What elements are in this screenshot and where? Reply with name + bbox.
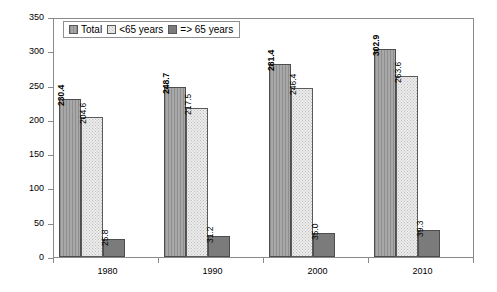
y-axis-tick-label: 300 bbox=[29, 46, 44, 57]
legend: Total <65 years => 65 years bbox=[63, 21, 240, 38]
x-axis-label-1990: 1990 bbox=[160, 266, 265, 276]
bar-value-total-1980: 230.4 bbox=[57, 85, 66, 106]
legend-item-over-65[interactable]: => 65 years bbox=[168, 24, 233, 35]
x-axis-tick-mark bbox=[263, 258, 264, 263]
legend-label: => 65 years bbox=[180, 24, 233, 35]
y-axis-tick-label: 200 bbox=[29, 115, 44, 126]
bar-value-total-2000: 281.4 bbox=[267, 50, 276, 71]
bar-value-over65-1990: 31.2 bbox=[206, 226, 215, 243]
y-axis-tick-label: 100 bbox=[29, 183, 44, 194]
plot-area: 230.4 204.6 25.8 248.7 217.5 31.2 281.4 … bbox=[53, 18, 474, 258]
x-axis-label-2010: 2010 bbox=[370, 266, 475, 276]
legend-item-under-65[interactable]: <65 years bbox=[107, 24, 163, 35]
bar-value-under65-1990: 217.5 bbox=[184, 94, 193, 115]
x-axis-tick-mark bbox=[53, 258, 54, 263]
x-axis-label-1980: 1980 bbox=[55, 266, 160, 276]
y-axis-tick-label: 150 bbox=[29, 149, 44, 160]
x-axis-label-2000: 2000 bbox=[265, 266, 370, 276]
x-axis-tick-mark bbox=[473, 258, 474, 263]
legend-label: <65 years bbox=[119, 24, 163, 35]
y-axis-tick-label: 250 bbox=[29, 81, 44, 92]
bar-value-under65-2010: 263.6 bbox=[394, 62, 403, 83]
bar-value-under65-2000: 246.4 bbox=[289, 74, 298, 95]
y-axis-tick-label: 50 bbox=[34, 218, 44, 229]
y-axis-tick-label: 0 bbox=[39, 252, 44, 263]
legend-swatch-icon bbox=[168, 25, 177, 34]
x-axis-tick-mark bbox=[368, 258, 369, 263]
bar-value-over65-2000: 35.0 bbox=[311, 223, 320, 240]
x-axis-tick-mark bbox=[158, 258, 159, 263]
bar-value-over65-2010: 39.3 bbox=[416, 221, 425, 238]
legend-item-total[interactable]: Total bbox=[69, 24, 102, 35]
y-axis-tick-label: 350 bbox=[29, 12, 44, 23]
bar-value-total-2010: 302.9 bbox=[372, 35, 381, 56]
bar-chart: 0 50 100 150 200 250 300 350 bbox=[0, 0, 497, 292]
bar-value-under65-1980: 204.6 bbox=[79, 102, 88, 123]
legend-swatch-icon bbox=[107, 25, 116, 34]
bar-value-total-1990: 248.7 bbox=[162, 72, 171, 93]
legend-swatch-icon bbox=[69, 25, 78, 34]
bar-value-over65-1980: 25.8 bbox=[101, 230, 110, 247]
legend-label: Total bbox=[81, 24, 102, 35]
